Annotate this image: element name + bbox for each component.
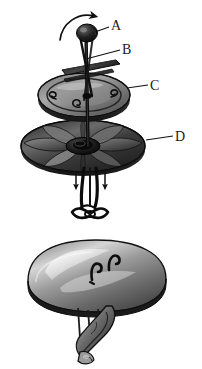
mechanical-diagram-illustration: [0, 0, 202, 369]
part-label-b: B: [122, 43, 132, 57]
top-knob: [77, 24, 98, 42]
part-label-a: A: [111, 19, 121, 33]
leader-line-d: [146, 136, 173, 140]
lower-dome: [28, 240, 166, 317]
figure-root: A B C D: [0, 0, 202, 369]
leader-line-c: [127, 85, 148, 88]
part-label-d: D: [175, 130, 185, 144]
part-label-c: C: [150, 79, 160, 93]
